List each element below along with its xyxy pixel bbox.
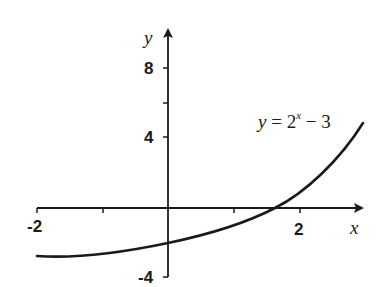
curve-exponential <box>37 123 363 257</box>
equation-tail: − 3 <box>301 111 331 132</box>
x-axis-label: x <box>349 217 359 238</box>
y-tick-label-4: 4 <box>144 128 154 147</box>
x-tick-label-neg2: -2 <box>27 217 42 236</box>
equation-base: = 2 <box>266 111 296 132</box>
equation-label: y = 2x − 3 <box>256 109 331 132</box>
equation-y: y <box>256 111 267 132</box>
y-tick-label-8: 8 <box>144 59 153 78</box>
x-tick-label-2: 2 <box>294 220 303 239</box>
y-tick-label-neg4: -4 <box>138 268 154 287</box>
y-axis-label: y <box>142 27 153 48</box>
function-plot: -2 2 8 4 -4 y x y = 2x − 3 <box>0 0 392 287</box>
